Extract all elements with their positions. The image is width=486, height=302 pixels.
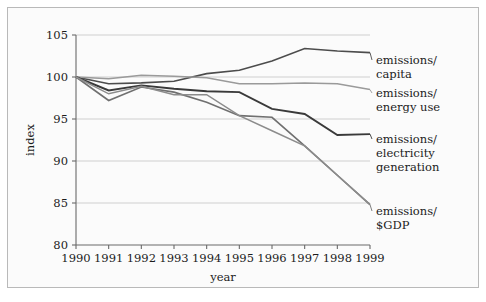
chart-figure: 8085909510010519901991199219931994199519… [0,0,486,302]
x-tick-label: 1995 [225,251,254,265]
x-tick-label: 1996 [257,251,286,265]
legend-label-line: $GDP [376,218,410,232]
line-chart: 8085909510010519901991199219931994199519… [0,0,486,302]
y-tick-label: 100 [46,70,68,84]
legend-label-line: electricity [376,146,435,160]
y-tick-label: 95 [53,112,68,126]
legend-label-line: energy use [376,100,440,114]
legend-label-line: emissions/ [376,204,437,218]
y-tick-label: 80 [53,238,68,252]
legend-entry: emissions/$GDP [376,204,437,232]
x-tick-label: 1990 [61,251,90,265]
legend-label-line: emissions/ [376,86,437,100]
x-tick-label: 1992 [127,251,156,265]
x-tick-label: 1998 [323,251,352,265]
x-axis-title: year [209,270,236,284]
legend-leader-line [370,53,372,60]
x-tick-label: 1997 [290,251,319,265]
series-line-emissions-gdp [76,77,370,205]
y-tick-label: 85 [53,196,68,210]
x-tick-label: 1993 [159,251,188,265]
series-line-emissions-energy-use [76,75,370,89]
legend-label-line: emissions/ [376,132,437,146]
legend-label-line: capita [376,67,412,81]
legend-entry: emissions/energy use [376,86,440,114]
legend-leader-line [370,90,372,93]
legend-entry: emissions/capita [376,53,437,81]
y-tick-label: 90 [53,154,68,168]
x-tick-label: 1991 [94,251,123,265]
x-tick-label: 1994 [192,251,221,265]
legend-entry: emissions/electricitygeneration [376,132,440,174]
legend-leader-line [370,205,372,211]
legend-label-line: emissions/ [376,53,437,67]
legend-leader-line [370,134,372,139]
legend-label-line: generation [376,160,440,174]
series-line-emissions-capita [76,48,370,83]
y-axis-title: index [23,124,37,156]
x-tick-label: 1999 [355,251,384,265]
y-tick-label: 105 [46,28,68,42]
